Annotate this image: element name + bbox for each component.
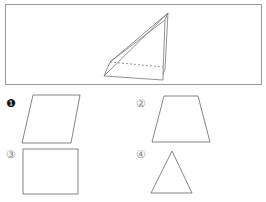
solid-figure — [104, 13, 168, 80]
option-4-label[interactable]: ④ — [136, 149, 146, 161]
option-4-triangle — [151, 151, 192, 193]
option-2-trapezoid — [152, 96, 210, 142]
option-3-label[interactable]: ③ — [6, 149, 16, 161]
option-1-label[interactable]: ❶ — [6, 98, 16, 110]
option-1-parallelogram — [22, 95, 80, 143]
option-2-label[interactable]: ② — [136, 98, 146, 110]
figure-canvas — [0, 0, 266, 202]
option-3-square — [23, 149, 78, 194]
